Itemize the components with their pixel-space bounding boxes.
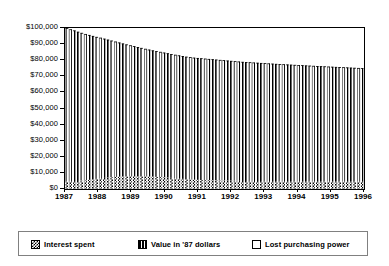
bar-top-edge (245, 62, 248, 63)
bar-segment (294, 181, 297, 189)
bar-segment (144, 28, 147, 49)
bar-segment (234, 61, 237, 181)
bar-segment (200, 180, 203, 189)
bar-segment (361, 182, 364, 189)
bar-segment (88, 28, 91, 35)
bar-segment (342, 67, 345, 181)
legend-label-value-87-dollars: Value in '87 dollars (151, 240, 220, 249)
bar-segment (331, 67, 334, 182)
bar-segment (215, 180, 218, 189)
bar-top-edge (219, 60, 222, 61)
bar-segment (294, 65, 297, 182)
bar-top-edge (69, 29, 72, 30)
bar-segment (331, 182, 334, 190)
bar-segment (226, 28, 229, 61)
bar-segment (174, 55, 177, 178)
bar-segment (107, 40, 110, 178)
bar-segment (77, 32, 80, 181)
bar-segment (193, 58, 196, 180)
bar-segment (279, 28, 282, 64)
bar-segment (152, 177, 155, 189)
bar-top-edge (114, 42, 117, 43)
bar-top-edge (118, 42, 121, 43)
bar-top-edge (271, 64, 274, 65)
bar-segment (178, 55, 181, 178)
bar-segment (66, 28, 69, 181)
bar-segment (185, 179, 188, 189)
bar-segment (163, 28, 166, 53)
bar-segment (73, 28, 76, 30)
legend-label-interest-spent: Interest spent (44, 240, 95, 249)
bar-segment (219, 180, 222, 189)
bar-segment (211, 59, 214, 180)
bar-segment (208, 28, 211, 59)
bar-segment (305, 28, 308, 65)
bar-segment (230, 28, 233, 61)
bar-segment (267, 63, 270, 181)
bar-segment (155, 177, 158, 189)
bar-segment (103, 39, 106, 178)
x-tick-mark (164, 189, 165, 192)
bar-segment (234, 28, 237, 61)
bar-segment (196, 28, 199, 58)
y-tick-label: $30,000 (0, 136, 58, 144)
bar-segment (159, 52, 162, 177)
bar-segment (320, 181, 323, 189)
legend-item-interest-spent: Interest spent (31, 238, 95, 250)
y-tick-label: $50,000 (0, 104, 58, 112)
bar-top-edge (193, 58, 196, 59)
bar-segment (260, 181, 263, 189)
bar-segment (163, 177, 166, 189)
bar-segment (69, 29, 72, 181)
bar-segment (331, 28, 334, 67)
bar-segment (66, 181, 69, 189)
bar-segment (230, 181, 233, 189)
bar-segment (140, 48, 143, 176)
bar-segment (264, 181, 267, 189)
bar-segment (69, 181, 72, 189)
bar-segment (81, 28, 84, 33)
bar-top-edge (331, 67, 334, 68)
x-axis: 1987198819891990199119921993199419951996 (0, 191, 389, 207)
bar-segment (99, 28, 102, 38)
bar-segment (103, 178, 106, 189)
bar-segment (305, 181, 308, 189)
bar-segment (77, 28, 80, 32)
bar-segment (122, 176, 125, 189)
bar-top-edge (350, 68, 353, 69)
bar-top-edge (305, 65, 308, 66)
bar-segment (110, 177, 113, 189)
bar-segment (338, 28, 341, 67)
bar-segment (264, 28, 267, 63)
bar-segment (346, 182, 349, 189)
bar-segment (133, 46, 136, 176)
x-tick-label: 1988 (80, 191, 114, 202)
bar-top-edge (159, 52, 162, 53)
bar-segment (152, 50, 155, 176)
x-tick-mark (130, 189, 131, 192)
y-tick-label: $10,000 (0, 168, 58, 176)
bar-segment (110, 28, 113, 41)
bar-segment (73, 30, 76, 181)
bar-segment (226, 61, 229, 181)
bar-segment (223, 28, 226, 60)
bar-top-edge (88, 35, 91, 36)
bar-segment (144, 49, 147, 177)
bar-segment (282, 28, 285, 64)
bar-top-edge (66, 28, 69, 29)
x-tick-label: 1987 (47, 191, 81, 202)
x-tick-label: 1993 (246, 191, 280, 202)
x-tick-mark (330, 189, 331, 192)
bar-top-edge (327, 67, 330, 68)
bar-segment (353, 182, 356, 189)
bar-segment (290, 65, 293, 182)
bar-top-edge (196, 58, 199, 59)
x-tick-label: 1992 (213, 191, 247, 202)
bar-top-edge (178, 55, 181, 56)
y-tick-label: $40,000 (0, 120, 58, 128)
bar-segment (312, 66, 315, 182)
bar-segment (301, 181, 304, 189)
bar-segment (163, 53, 166, 178)
bar-top-edge (260, 63, 263, 64)
bar-top-edge (342, 67, 345, 68)
